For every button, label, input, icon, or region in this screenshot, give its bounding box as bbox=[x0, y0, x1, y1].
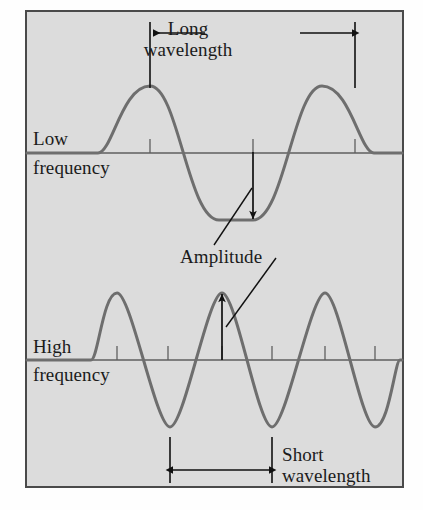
long-wavelength-label-line1: Long bbox=[168, 18, 209, 39]
short-wavelength-label: Shortwavelength bbox=[282, 444, 371, 487]
high-frequency-label-line2: frequency bbox=[33, 364, 110, 385]
low-frequency-label-line1: Low bbox=[33, 128, 68, 149]
long-wavelength-label: Longwavelength bbox=[123, 18, 253, 61]
long-wavelength-label-line2: wavelength bbox=[144, 39, 233, 60]
amplitude-label-low: Amplitude bbox=[180, 246, 262, 267]
high-frequency-label-line1: High bbox=[33, 336, 71, 357]
short-wavelength-label-line2: wavelength bbox=[282, 465, 371, 486]
short-wavelength-label-line1: Short bbox=[282, 444, 324, 465]
figure-page: Longwavelength Low frequency Amplitude H… bbox=[0, 0, 423, 510]
low-frequency-label-line2: frequency bbox=[33, 157, 110, 178]
